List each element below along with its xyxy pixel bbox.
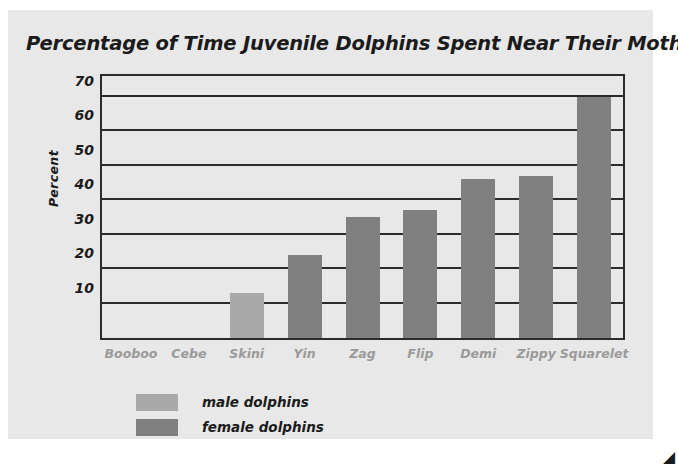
y-tick-label-50: 50 [75, 142, 94, 158]
legend-label-female: female dolphins [202, 419, 324, 435]
bar-zippy [519, 176, 553, 338]
chart-page: Percentage of Time Juvenile Dolphins Spe… [0, 0, 678, 464]
x-tick-label-zag: Zag [349, 346, 375, 361]
bar-yin [288, 255, 322, 338]
bar-squarelet [577, 97, 611, 338]
legend-swatch-female [136, 419, 178, 436]
bar-demi [461, 179, 495, 338]
x-tick-label-booboo: Booboo [105, 346, 158, 361]
plot-inner [102, 76, 623, 338]
y-tick-label-40: 40 [75, 176, 94, 192]
y-tick-label-20: 20 [75, 245, 94, 261]
x-tick-label-yin: Yin [293, 346, 315, 361]
y-tick-label-60: 60 [75, 107, 94, 123]
x-tick-label-squarelet: Squarelet [560, 346, 629, 361]
legend-label-male: male dolphins [202, 394, 309, 410]
bar-flip [403, 210, 437, 338]
bar-zag [346, 217, 380, 338]
chart-legend: male dolphinsfemale dolphins [136, 391, 324, 441]
x-tick-label-zippy: Zippy [516, 346, 555, 361]
y-axis-label: Percent [46, 150, 61, 207]
x-tick-label-demi: Demi [460, 346, 496, 361]
legend-swatch-male [136, 394, 178, 411]
page-corner-artifact: ◢ [662, 451, 676, 464]
gridline-60 [102, 129, 623, 131]
chart-card: Percentage of Time Juvenile Dolphins Spe… [8, 10, 653, 439]
x-tick-label-flip: Flip [407, 346, 433, 361]
y-tick-label-10: 10 [75, 280, 94, 296]
x-tick-label-cebe: Cebe [171, 346, 206, 361]
gridline-70 [102, 95, 623, 97]
legend-item-female: female dolphins [136, 416, 324, 438]
chart-title: Percentage of Time Juvenile Dolphins Spe… [26, 32, 646, 55]
legend-item-male: male dolphins [136, 391, 324, 413]
y-tick-label-70: 70 [75, 73, 94, 89]
gridline-50 [102, 164, 623, 166]
bar-skini [230, 293, 264, 338]
y-tick-label-30: 30 [75, 211, 94, 227]
x-axis-ticks: BoobooCebeSkiniYinZagFlipDemiZippySquare… [100, 346, 625, 372]
plot-area: 10203040506070 [100, 74, 625, 340]
x-tick-label-skini: Skini [229, 346, 264, 361]
